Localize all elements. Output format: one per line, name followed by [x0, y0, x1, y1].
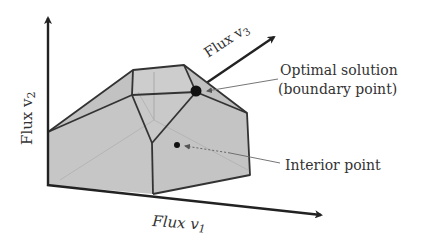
flux-cone-diagram: Flux v2 Flux v3 Flux v1 Optimal solution… — [0, 0, 424, 244]
v1-axis-label: Flux v1 — [151, 212, 207, 236]
optimal-point-marker — [191, 86, 202, 97]
v1-axis — [47, 185, 321, 215]
interior-point-marker — [174, 142, 180, 148]
boundary-point-label: (boundary point) — [278, 81, 397, 97]
v2-axis-label: Flux v2 — [18, 91, 38, 145]
optimal-leader-line — [207, 79, 278, 91]
interior-point-label: Interior point — [285, 157, 381, 173]
feasible-polytope — [48, 65, 250, 194]
optimal-solution-label: Optimal solution — [280, 62, 398, 78]
